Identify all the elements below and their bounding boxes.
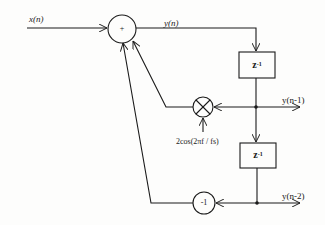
output-label: y(n)	[164, 18, 179, 28]
tap-2-label: y(n-2)	[282, 191, 305, 201]
junction-dot-2	[255, 201, 259, 205]
filter-block-diagram: x(n) + y(n) z-1 z-1 y(n-1) y(n-2) 2cos(2…	[0, 0, 325, 225]
multiplier-feedback-line	[133, 41, 193, 107]
diagram-lines	[0, 0, 325, 225]
gain-feedback-line	[123, 43, 193, 203]
delay-2-label: z-1	[240, 150, 276, 160]
input-label: x(n)	[29, 14, 44, 24]
delay-1-label: z-1	[239, 60, 275, 70]
junction-dot-1	[254, 105, 258, 109]
tap-1-label: y(n-1)	[282, 95, 305, 105]
coefficient-label: 2cos(2πf / fs)	[176, 137, 219, 147]
gain-label: -1	[196, 199, 212, 207]
output-signal-line	[136, 28, 256, 51]
adder-symbol: +	[116, 25, 128, 33]
